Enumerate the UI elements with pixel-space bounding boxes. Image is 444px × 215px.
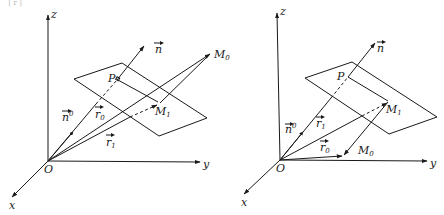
n-vector [348, 43, 375, 77]
svg-text:r1: r1 [316, 117, 326, 131]
r1-label: r1 [106, 135, 116, 150]
n0-unit-vector [280, 133, 302, 160]
left-figure: z y x O P M0 M1 n n0 [9, 8, 230, 212]
y-axis-label: y [202, 158, 210, 171]
svg-text:n0: n0 [285, 122, 297, 136]
r1-label: r1 [316, 117, 326, 131]
z-axis-label: z [279, 5, 286, 18]
point-m1-label: M1 [385, 103, 402, 117]
r1-vector-dashed [130, 105, 157, 117]
n0-label: n0 [285, 122, 297, 136]
svg-text:r0: r0 [95, 108, 105, 122]
top-text-fragment: | r | [8, 0, 22, 7]
x-axis-label: x [241, 196, 248, 209]
y-axis-label: y [429, 157, 437, 170]
point-p-label: P [336, 70, 345, 83]
point-m1-label: M1 [154, 105, 171, 119]
diagram-canvas: | r | z y x O P M0 M1 n [0, 0, 444, 215]
r1-vector-solid [48, 117, 130, 161]
r1-vector-dashed [362, 103, 387, 116]
x-axis-label: x [9, 199, 16, 212]
z-axis-label: z [50, 8, 57, 21]
right-figure: z y x O P M1 M0 n n0 [241, 5, 437, 209]
p-m1-line [348, 77, 388, 101]
point-m0-label: M0 [357, 144, 374, 158]
svg-text:r0: r0 [320, 141, 330, 155]
svg-text:r1: r1 [106, 136, 116, 150]
svg-text:n0: n0 [62, 110, 74, 124]
point-m0-label: M0 [213, 48, 230, 62]
z-axis [277, 13, 280, 160]
x-axis [244, 160, 280, 194]
r0-vector [280, 156, 342, 160]
r0-vector [48, 54, 210, 161]
x-axis [12, 161, 48, 197]
r0-label: r0 [320, 141, 330, 155]
n-label: n [154, 43, 162, 56]
y-axis [48, 161, 200, 162]
point-p-label: P [107, 72, 116, 85]
r0-label: r0 [95, 107, 105, 122]
n-label: n [377, 42, 384, 55]
p-m1-line [118, 80, 158, 102]
y-axis [280, 160, 427, 161]
origin-label: O [44, 163, 53, 176]
n0-label: n0 [62, 110, 74, 124]
origin-label: O [276, 162, 285, 175]
m0-m1-line [160, 54, 210, 103]
svg-text:n: n [155, 43, 162, 56]
svg-text:n: n [377, 42, 384, 55]
